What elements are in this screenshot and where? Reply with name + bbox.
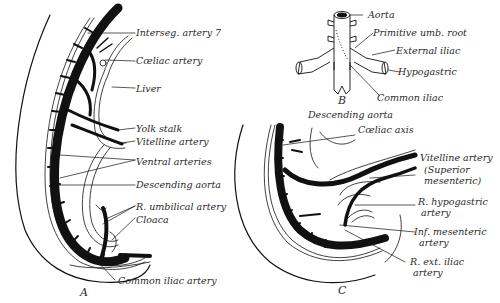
label-interseg-artery: Interseg. artery 7	[136, 28, 221, 38]
label-r-hypogastric: R. hypogastric	[418, 197, 488, 207]
label-r-ext-iliac: R. ext. iliac	[410, 257, 464, 267]
label-coeliac-artery: Cœliac artery	[136, 56, 202, 66]
label-r-ext-iliac-artery: artery	[413, 268, 443, 278]
label-superior: (Superior	[424, 165, 470, 175]
figure-letter-b: B	[338, 94, 346, 107]
label-vitelline-artery-c: Vitelline artery	[420, 153, 493, 163]
figure-b-drawing	[296, 12, 400, 97]
label-external-iliac: External iliac	[396, 46, 460, 56]
label-coeliac-axis: Cœliac axis	[358, 125, 414, 135]
label-ventral-arteries: Ventral arteries	[136, 157, 212, 167]
label-r-umbilical-artery: R. umbilical artery	[136, 202, 226, 212]
label-hypogastric: Hypogastric	[398, 67, 457, 77]
label-inf-mesenteric: Inf. mesenteric	[414, 227, 487, 237]
figure-letter-a: A	[80, 286, 88, 299]
label-r-hypogastric-artery: artery	[421, 208, 451, 218]
figure-letter-c: C	[338, 284, 346, 297]
label-common-iliac-b: Common iliac	[377, 93, 443, 103]
label-liver: Liver	[136, 84, 161, 94]
label-aorta: Aorta	[368, 10, 395, 20]
label-primitive-umb-root: Primitive umb. root	[373, 28, 467, 38]
label-inf-mesenteric-artery: artery	[419, 238, 449, 248]
label-descending-aorta-a: Descending aorta	[136, 180, 221, 190]
label-common-iliac-artery: Common iliac artery	[118, 276, 217, 286]
label-descending-aorta-c: Descending aorta	[308, 110, 393, 120]
figure-c-drawing	[235, 125, 415, 283]
figure-a-drawing	[16, 8, 150, 282]
label-vitelline-artery-a: Vitelline artery	[136, 137, 209, 147]
label-mesenteric: mesenteric)	[424, 176, 481, 186]
label-yolk-stalk: Yolk stalk	[136, 124, 182, 134]
label-cloaca: Cloaca	[136, 215, 169, 225]
